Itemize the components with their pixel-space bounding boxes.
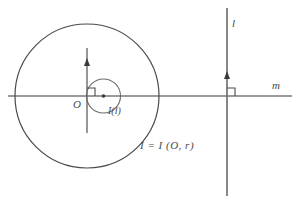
- image-of-line-label: I(l): [108, 106, 121, 116]
- inversion-figure: O I(l) l m I = I (O, r): [0, 0, 300, 202]
- line-l-label: l: [232, 18, 235, 29]
- line-m-label: m: [272, 80, 280, 91]
- right-angle-marker-line-l-icon: [227, 88, 235, 96]
- origin-label: O: [73, 99, 81, 110]
- arrowhead-line-l-icon: [224, 71, 230, 79]
- circle-equation-label: I = I (O, r): [140, 140, 194, 151]
- arrowhead-origin-icon: [84, 58, 90, 66]
- inner-circle-center-dot: [102, 94, 106, 98]
- figure-canvas: [0, 0, 300, 202]
